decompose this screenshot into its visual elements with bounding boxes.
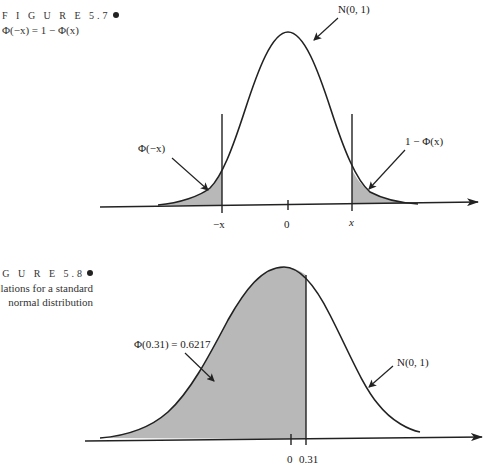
tick-label-pos-x: x bbox=[348, 216, 354, 228]
curve-label-arrow bbox=[314, 18, 338, 40]
shaded-area-label: Φ(0.31) = 0.6217 bbox=[134, 338, 211, 351]
x-axis bbox=[100, 202, 478, 207]
left-tail-label: Φ(−x) bbox=[138, 142, 165, 155]
tick-label-zero: 0 bbox=[284, 218, 290, 230]
tick-label-zero: 0 bbox=[287, 453, 293, 465]
cdf-shade bbox=[100, 267, 306, 439]
curve-label: N(0, 1) bbox=[397, 356, 429, 369]
left-tail-arrow bbox=[172, 158, 208, 190]
tick-label-neg-x: −x bbox=[213, 218, 225, 230]
right-tail-label: 1 − Φ(x) bbox=[405, 135, 443, 148]
curve-label-arrow bbox=[369, 366, 393, 387]
right-tail-arrow bbox=[369, 150, 405, 189]
figure-5-8-chart: 0 0.31 Φ(0.31) = 0.6217 N(0, 1) bbox=[85, 267, 482, 465]
left-tail-shade bbox=[158, 170, 222, 205]
figure-5-7-chart: −x 0 x N(0, 1) Φ(−x) 1 − Φ(x) bbox=[100, 3, 478, 230]
figures-canvas: −x 0 x N(0, 1) Φ(−x) 1 − Φ(x) 0 0.31 Φ(0… bbox=[0, 0, 488, 465]
curve-label: N(0, 1) bbox=[338, 3, 370, 16]
tick-label-0-31: 0.31 bbox=[299, 453, 318, 465]
